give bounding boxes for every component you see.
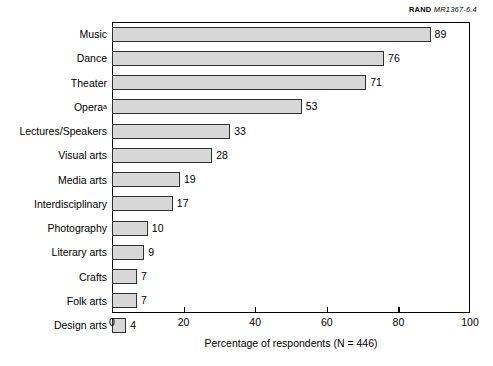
bar [112,75,366,90]
bar-value-label: 7 [141,295,147,306]
bar [112,221,148,236]
category-label-text: Visual arts [58,149,107,161]
category-label: Literary arts [0,240,107,264]
category-label-text: Music [80,28,107,40]
bar-row: 9 [112,240,470,264]
x-axis-tick-label: 60 [321,316,333,328]
category-label: Music [0,22,107,46]
x-axis-tick [398,307,399,313]
credit-figure-number: MR1367-6.4 [434,5,477,14]
bar-row: 7 [112,289,470,313]
category-label: Visual arts [0,143,107,167]
category-label-text: Opera [74,101,103,113]
x-axis-tick-label: 0 [109,316,115,328]
bar-value-label: 7 [141,271,147,282]
bar-value-label: 53 [306,101,318,112]
bar [112,293,137,308]
bar [112,27,431,42]
bars-container: 8976715333281917109774 [112,22,470,313]
bar-value-label: 71 [370,77,382,88]
x-axis-tick [112,307,113,313]
bar-value-label: 33 [234,126,246,137]
category-axis-labels: MusicDanceTheaterOperaaLectures/Speakers… [0,22,107,313]
category-label: Media arts [0,168,107,192]
bar-row: 7 [112,265,470,289]
category-label: Design arts [0,313,107,337]
category-label-text: Dance [77,52,107,64]
category-label: Interdisciplinary [0,192,107,216]
bar-value-label: 17 [177,198,189,209]
x-axis-tick-labels: 020406080100 [112,316,470,330]
bar-row: 71 [112,71,470,95]
bar-row: 17 [112,192,470,216]
category-label-text: Interdisciplinary [34,198,107,210]
figure-credit: RAND MR1367-6.4 [409,5,477,15]
bar [112,196,173,211]
category-label: Theater [0,71,107,95]
x-axis-tick-label: 100 [461,316,479,328]
credit-organization: RAND [409,5,431,14]
x-axis-tick-label: 80 [393,316,405,328]
category-label: Crafts [0,265,107,289]
x-axis-tick [255,307,256,313]
bar [112,99,302,114]
bar-value-label: 89 [435,29,447,40]
category-label-text: Folk arts [67,295,107,307]
category-label-text: Theater [71,77,107,89]
bar-value-label: 19 [184,174,196,185]
bar-chart-figure: RAND MR1367-6.4 MusicDanceTheaterOperaaL… [0,0,493,366]
x-axis-tick-label: 40 [249,316,261,328]
bar-row: 89 [112,22,470,46]
category-label: Lectures/Speakers [0,119,107,143]
x-axis-tick [469,307,470,313]
category-label-text: Design arts [54,319,107,331]
bar [112,148,212,163]
category-label: Dance [0,46,107,70]
bar-value-label: 28 [216,150,228,161]
category-label-text: Media arts [58,174,107,186]
category-label-text: Lectures/Speakers [19,125,107,137]
bar-row: 19 [112,168,470,192]
bar-value-label: 10 [152,223,164,234]
x-axis-title: Percentage of respondents (N = 446) [112,337,470,350]
category-label: Folk arts [0,289,107,313]
category-label: Photography [0,216,107,240]
bar [112,245,144,260]
category-label: Operaa [0,95,107,119]
bar-value-label: 9 [148,247,154,258]
bar-row: 33 [112,119,470,143]
bar-row: 53 [112,95,470,119]
bar [112,172,180,187]
category-label-text: Literary arts [52,246,107,258]
x-axis-tick [184,307,185,313]
category-label-text: Photography [47,222,107,234]
bar-row: 28 [112,143,470,167]
bar-row: 10 [112,216,470,240]
bar [112,269,137,284]
bar [112,124,230,139]
bar-value-label: 76 [388,53,400,64]
x-axis-tick-label: 20 [178,316,190,328]
bar [112,51,384,66]
x-axis-tick [327,307,328,313]
bar-row: 76 [112,46,470,70]
category-label-text: Crafts [79,271,107,283]
